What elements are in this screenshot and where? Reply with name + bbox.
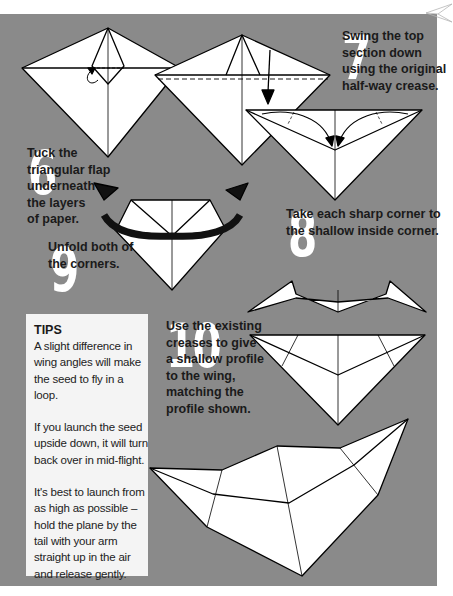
final-wing-diagram: [150, 419, 408, 576]
tips-title: TIPS: [34, 323, 148, 337]
step-6-text: Tuck the triangular flap underneath the …: [27, 145, 110, 228]
tip-paragraph: It's best to launch from as high as poss…: [34, 484, 148, 582]
step-10-profile: [248, 281, 426, 312]
step-9-text: Unfold both of the corners.: [48, 239, 133, 272]
step-9-diagram: [94, 183, 248, 290]
step-7-text: Swing the top section down using the ori…: [342, 28, 446, 94]
step-10-diagram: [250, 335, 425, 425]
step-8-diagram: [246, 110, 422, 200]
tips-box: TIPS A slight difference in wing angles …: [26, 314, 148, 576]
step-10-text: Use the existing creases to give a shall…: [166, 318, 264, 417]
tip-paragraph: If you launch the seed upside down, it w…: [34, 419, 148, 468]
step-8-text: Take each sharp corner to the shallow in…: [286, 206, 441, 239]
tip-paragraph: A slight difference in wing angles will …: [34, 338, 148, 403]
paper-plane-icon: [424, 2, 453, 24]
